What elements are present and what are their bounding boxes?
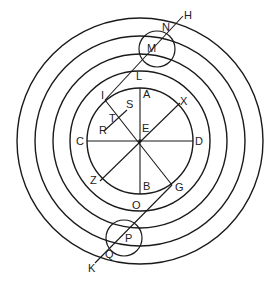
label-c: C — [76, 135, 84, 147]
label-m: M — [147, 42, 156, 54]
label-t: T — [109, 112, 116, 124]
label-e: E — [142, 122, 149, 134]
label-h: H — [184, 9, 192, 21]
geometry-diagram: HNMLISAXTRECDZBGOPQK — [0, 0, 272, 284]
center-dot — [138, 139, 142, 143]
label-n: N — [162, 21, 170, 33]
label-s: S — [126, 98, 133, 110]
label-p: P — [125, 232, 132, 244]
label-l: L — [136, 70, 142, 82]
background — [0, 0, 272, 284]
label-i: I — [101, 89, 104, 101]
label-g: G — [175, 181, 184, 193]
label-r: R — [99, 124, 107, 136]
label-q: Q — [105, 248, 114, 260]
label-a: A — [143, 88, 151, 100]
label-o: O — [132, 199, 141, 211]
center-point-e — [138, 139, 142, 143]
label-d: D — [195, 135, 203, 147]
label-x: X — [180, 95, 188, 107]
label-z: Z — [90, 174, 97, 186]
label-k: K — [88, 262, 96, 274]
label-b: B — [143, 180, 150, 192]
